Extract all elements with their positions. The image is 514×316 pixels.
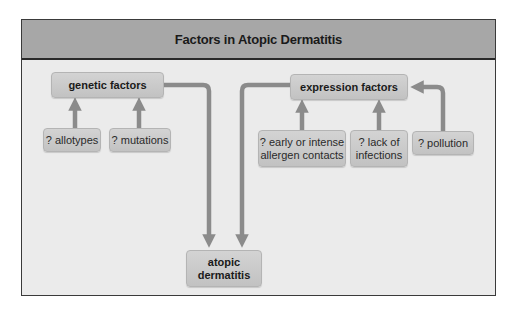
node-label: ? mutations xyxy=(112,134,169,147)
node-label-line2: infections xyxy=(356,149,402,162)
node-label-line2: dermatitis xyxy=(198,269,251,282)
node-label: ? allotypes xyxy=(46,134,99,147)
node-label: ? pollution xyxy=(418,137,468,150)
node-label-line1: atopic xyxy=(208,256,240,269)
node-expression-factors: expression factors xyxy=(290,74,408,100)
node-allotypes: ? allotypes xyxy=(43,128,101,152)
node-label: expression factors xyxy=(300,81,398,94)
node-mutations: ? mutations xyxy=(109,128,171,152)
node-genetic-factors: genetic factors xyxy=(51,72,164,98)
title-bar: Factors in Atopic Dermatitis xyxy=(22,20,495,60)
node-lack-of-infections: ? lack of infections xyxy=(350,130,408,167)
node-label: genetic factors xyxy=(68,79,146,92)
diagram-title: Factors in Atopic Dermatitis xyxy=(175,32,342,47)
node-label-line1: ? lack of xyxy=(359,136,400,149)
node-atopic-dermatitis: atopic dermatitis xyxy=(186,250,262,287)
node-label-line2: allergen contacts xyxy=(260,149,343,162)
node-allergen-contacts: ? early or intense allergen contacts xyxy=(258,130,346,167)
node-pollution: ? pollution xyxy=(412,131,474,155)
node-label-line1: ? early or intense xyxy=(260,136,344,149)
